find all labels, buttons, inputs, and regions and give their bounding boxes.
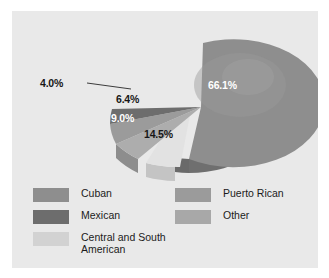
pie-chart: 66.1% 14.5% 9.0% 6.4% 4.0%	[12, 11, 318, 186]
legend-item-cuban[interactable]: Cuban	[33, 187, 183, 202]
slice-label-mexican: 66.1%	[208, 79, 238, 91]
legend-label-cuban: Cuban	[81, 187, 112, 200]
slice-label-puerto-rican: 6.4%	[116, 93, 140, 105]
pie-chart-svg: 66.1% 14.5% 9.0% 6.4% 4.0%	[12, 11, 318, 186]
chart-legend: Cuban Mexican Central and South American…	[12, 187, 318, 268]
legend-label-central-south-american: Central and South American	[81, 231, 166, 255]
legend-item-other[interactable]: Other	[175, 209, 315, 224]
legend-swatch-mexican	[33, 210, 69, 224]
slice-label-other: 9.0%	[111, 112, 135, 124]
slice-label-central-south-american: 14.5%	[144, 128, 174, 140]
leader-line-cuban	[87, 83, 131, 89]
legend-item-central-south-american[interactable]: Central and South American	[33, 231, 183, 255]
legend-column-right: Puerto Rican Other	[175, 187, 315, 231]
legend-swatch-central-south-american	[33, 232, 69, 246]
legend-label-puerto-rican: Puerto Rican	[223, 187, 284, 200]
legend-swatch-other	[175, 210, 211, 224]
slice-label-cuban: 4.0%	[40, 77, 64, 89]
legend-label-mexican: Mexican	[81, 209, 120, 222]
legend-label-other: Other	[223, 209, 249, 222]
legend-swatch-puerto-rican	[175, 188, 211, 202]
figure-panel: 66.1% 14.5% 9.0% 6.4% 4.0% Cuban Mexican…	[12, 11, 318, 268]
legend-swatch-cuban	[33, 188, 69, 202]
legend-item-puerto-rican[interactable]: Puerto Rican	[175, 187, 315, 202]
legend-item-mexican[interactable]: Mexican	[33, 209, 183, 224]
legend-column-left: Cuban Mexican Central and South American	[33, 187, 183, 262]
